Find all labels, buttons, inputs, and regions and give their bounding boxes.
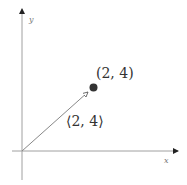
vector-label: ⟨2, 4⟩ [66, 113, 104, 129]
point-label: (2, 4) [96, 65, 134, 81]
vector-diagram: y x (2, 4) ⟨2, 4⟩ [0, 0, 187, 185]
y-axis-label: y [28, 15, 34, 24]
x-axis-label: x [164, 156, 169, 165]
point-dot [90, 84, 98, 92]
